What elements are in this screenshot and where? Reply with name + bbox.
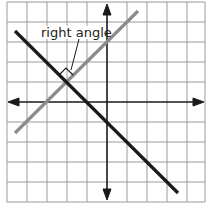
black-line <box>15 31 178 193</box>
y-axis-up-arrow-icon <box>103 4 111 15</box>
y-axis-down-arrow-icon <box>103 189 111 200</box>
x-axis <box>8 98 204 106</box>
x-axis-left-arrow-icon <box>8 98 19 106</box>
right-angle-label: right angle <box>41 25 112 40</box>
coordinate-plane: right angle <box>0 0 209 211</box>
x-axis-right-arrow-icon <box>193 98 204 106</box>
annotation-leader-line <box>71 39 79 70</box>
